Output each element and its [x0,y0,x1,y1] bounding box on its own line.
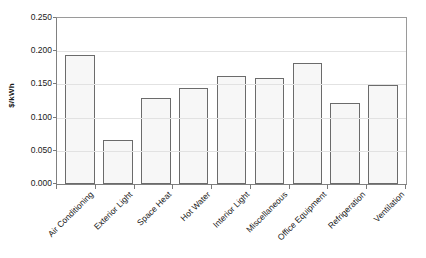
y-axis-tick-label: 0.000 [31,179,52,188]
bar-slot [364,18,402,184]
y-axis-tick-labels: 0.2500.2000.1500.1000.0500.000 [18,0,56,190]
x-axis-tick-mark [172,184,173,189]
x-axis-category-label: Hot Water [179,190,212,223]
bar-series [57,18,406,184]
x-axis-category-label: Interior Light [211,190,250,229]
x-axis-category-label: Refrigeration [326,190,366,230]
bar-chart: $/kWh 0.2500.2000.1500.1000.0500.000 Air… [0,0,426,258]
x-axis-tick-mark [327,184,328,189]
bar-slot [99,18,137,184]
x-axis-tick-mark [211,184,212,189]
gridline [57,151,406,152]
bar-slot [61,18,99,184]
bar [255,78,285,184]
bar [368,85,398,184]
bar-slot [250,18,288,184]
bar-slot [326,18,364,184]
gridline [57,118,406,119]
x-axis-tick-mark [95,184,96,189]
gridline [57,51,406,52]
gridline [57,84,406,85]
bar-slot [137,18,175,184]
bar [293,63,323,184]
bar-slot [288,18,326,184]
bar-slot [175,18,213,184]
y-axis-tick-label: 0.050 [31,146,52,155]
bar [330,103,360,184]
x-axis-tick-mark [405,184,406,189]
x-axis-tick-mark [56,184,57,189]
bar [103,140,133,184]
y-axis-tick-label: 0.150 [31,79,52,88]
x-axis-category-label: Air Conditioning [47,190,95,238]
x-axis-category-label: Exterior Light [93,190,134,231]
y-axis-tick-label: 0.200 [31,46,52,55]
y-axis-tick-label: 0.100 [31,112,52,121]
plot-area [56,17,407,185]
bar [141,98,171,184]
x-axis-category-labels: Air ConditioningExterior LightSpace Heat… [56,190,407,258]
bar-slot [213,18,251,184]
x-axis-category-label: Ventilation [372,190,406,224]
bar [179,88,209,184]
x-axis-tick-mark [250,184,251,189]
x-axis-tick-mark [289,184,290,189]
y-axis-tick-label: 0.250 [31,13,52,22]
x-axis-tick-mark [134,184,135,189]
x-axis-category-label: Space Heat [136,190,173,227]
x-axis-tick-mark [366,184,367,189]
y-axis-title-text: $/kWh [7,83,16,108]
bar [65,55,95,184]
bar [217,76,247,184]
